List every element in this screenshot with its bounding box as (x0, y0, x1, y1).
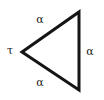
label-tau: τ (3, 45, 17, 56)
triangle-outline (22, 12, 79, 90)
label-alpha-upper: α (33, 14, 47, 25)
diagram-canvas: τ α α α (0, 0, 104, 100)
label-alpha-lower: α (33, 77, 47, 88)
label-alpha-right: α (83, 46, 97, 57)
